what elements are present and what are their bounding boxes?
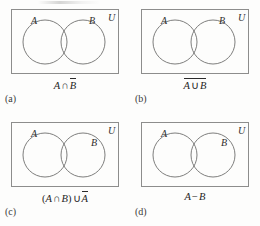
complement-group: A∪B [184,78,207,91]
circle-set-b [191,133,235,177]
circle-set-a [23,20,67,64]
venn-diagram-figure: A B U A∩B (a) A B U A∪B (b) A B U (A∩B) [0,0,260,226]
set-label-universe: U [238,126,245,136]
set-label-b: B [221,138,227,148]
expression-caption-d: A−B [130,191,260,203]
part-letter-b: (b) [135,93,147,104]
circle-set-a [23,133,67,177]
operand-a-complement: A [82,191,88,204]
part-letter-a: (a) [5,93,16,104]
venn-circles [141,122,249,187]
set-label-a: A [31,16,37,26]
operator-union: ∪ [190,80,200,91]
venn-circles [11,9,119,74]
venn-panel-a: A B U A∩B (a) [0,0,130,113]
part-letter-c: (c) [5,206,16,217]
venn-circles [11,122,119,187]
set-label-b: B [91,138,97,148]
operator-minus: − [191,191,199,202]
circle-set-a [153,20,197,64]
set-label-universe: U [108,13,115,23]
venn-panel-d: A B U A−B (d) [130,113,260,226]
part-letter-d: (d) [135,206,147,217]
set-label-b: B [89,16,95,26]
expression-caption-b: A∪B [130,78,260,92]
circle-set-a [153,133,197,177]
set-label-universe: U [238,13,245,23]
venn-panel-c: A B U (A∩B)∪A (c) [0,113,130,226]
circle-set-b [61,20,105,64]
operator-intersection: ∩ [52,193,62,204]
operator-intersection: ∩ [60,80,70,91]
operand-b: B [200,80,206,91]
expression-caption-c: (A∩B)∪A [0,191,130,205]
set-label-a: A [161,129,167,139]
operand-b-complement: B [70,78,76,91]
venn-circles [141,9,249,74]
set-label-b: B [219,16,225,26]
set-label-a: A [31,129,37,139]
expression-caption-a: A∩B [0,78,130,92]
paren-close: ) [68,193,72,204]
operand-b: B [199,191,205,202]
set-label-universe: U [108,126,115,136]
set-label-a: A [161,16,167,26]
circle-set-b [191,20,235,64]
operator-union: ∪ [72,193,82,204]
circle-set-b [61,133,105,177]
venn-panel-b: A B U A∪B (b) [130,0,260,113]
